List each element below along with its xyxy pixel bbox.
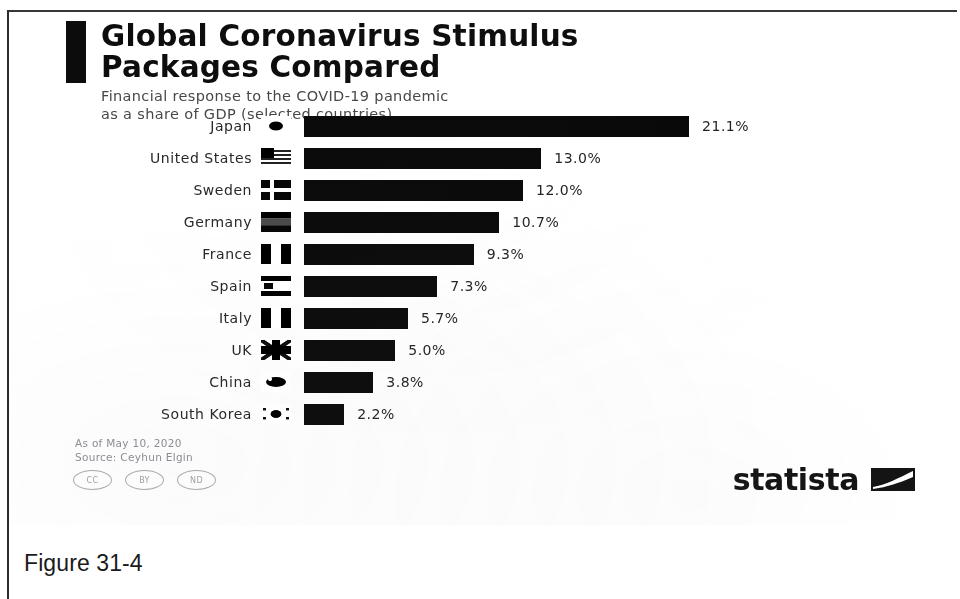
bar-row: South Korea2.2% (9, 398, 957, 430)
figure-caption: Figure 31-4 (24, 550, 143, 577)
bar-category-label: Germany (9, 214, 261, 230)
bar-track: 12.0% (304, 174, 957, 206)
title-accent-bar (66, 21, 86, 83)
bar-track: 13.0% (304, 142, 957, 174)
flag-south-korea-icon (261, 404, 291, 424)
flag-germany-icon (261, 212, 291, 232)
bar-category-label: Sweden (9, 182, 261, 198)
bar (304, 116, 689, 137)
bar-value-label: 7.3% (450, 278, 488, 294)
bar (304, 148, 541, 169)
cc-badge-cc: CC (73, 470, 112, 490)
bar-track: 9.3% (304, 238, 957, 270)
bar (304, 340, 395, 361)
bar-value-label: 5.7% (421, 310, 459, 326)
flag-united-states-icon (261, 148, 291, 168)
flag-japan-icon (261, 116, 291, 136)
bar-track: 2.2% (304, 398, 957, 430)
bar-category-label: South Korea (9, 406, 261, 422)
statista-logo-mark (871, 468, 915, 491)
bar-category-label: France (9, 246, 261, 262)
flag-italy-icon (261, 308, 291, 328)
statista-infographic-panel: Global Coronavirus Stimulus Packages Com… (9, 10, 957, 525)
bar-category-label: United States (9, 150, 261, 166)
flag-sweden-icon (261, 180, 291, 200)
bar-value-label: 21.1% (702, 118, 749, 134)
bar-row: Sweden12.0% (9, 174, 957, 206)
bar-category-label: UK (9, 342, 261, 358)
bar-row: Germany10.7% (9, 206, 957, 238)
source-notes: As of May 10, 2020 Source: Ceyhun Elgin (75, 436, 193, 464)
bar-chart-plot-area: Japan21.1%United States13.0%Sweden12.0%G… (9, 110, 957, 430)
bar (304, 276, 437, 297)
cc-badge-by: BY (125, 470, 164, 490)
bar-track: 7.3% (304, 270, 957, 302)
bar-value-label: 2.2% (357, 406, 395, 422)
bar (304, 404, 344, 425)
bar-category-label: China (9, 374, 261, 390)
bar-category-label: Japan (9, 118, 261, 134)
chart-title: Global Coronavirus Stimulus Packages Com… (101, 21, 937, 82)
bar-value-label: 12.0% (536, 182, 583, 198)
bar-row: Japan21.1% (9, 110, 957, 142)
bar-value-label: 5.0% (408, 342, 446, 358)
statista-wordmark: statista (733, 462, 859, 497)
bar-track: 5.0% (304, 334, 957, 366)
flag-france-icon (261, 244, 291, 264)
bar-row: France9.3% (9, 238, 957, 270)
bar-category-label: Spain (9, 278, 261, 294)
bar-value-label: 13.0% (554, 150, 601, 166)
bar-value-label: 3.8% (386, 374, 424, 390)
bar-row: Italy5.7% (9, 302, 957, 334)
bar-row: United States13.0% (9, 142, 957, 174)
bar (304, 212, 499, 233)
bar-track: 5.7% (304, 302, 957, 334)
bar-category-label: Italy (9, 310, 261, 326)
bar-row: UK5.0% (9, 334, 957, 366)
creative-commons-badges: CCBYND (73, 470, 216, 490)
bar-row: China3.8% (9, 366, 957, 398)
bar-track: 10.7% (304, 206, 957, 238)
title-block: Global Coronavirus Stimulus Packages Com… (101, 21, 937, 124)
bar (304, 180, 523, 201)
bar-row: Spain7.3% (9, 270, 957, 302)
bar-value-label: 10.7% (512, 214, 559, 230)
bar (304, 244, 474, 265)
infographic-header: Global Coronavirus Stimulus Packages Com… (66, 21, 937, 124)
bar-track: 3.8% (304, 366, 957, 398)
cc-badge-nd: ND (177, 470, 216, 490)
flag-china-icon (261, 372, 291, 392)
flag-uk-icon (261, 340, 291, 360)
bar-track: 21.1% (304, 110, 957, 142)
bar (304, 308, 408, 329)
bar-value-label: 9.3% (487, 246, 525, 262)
bar (304, 372, 373, 393)
flag-spain-icon (261, 276, 291, 296)
statista-logo: statista (733, 462, 915, 497)
